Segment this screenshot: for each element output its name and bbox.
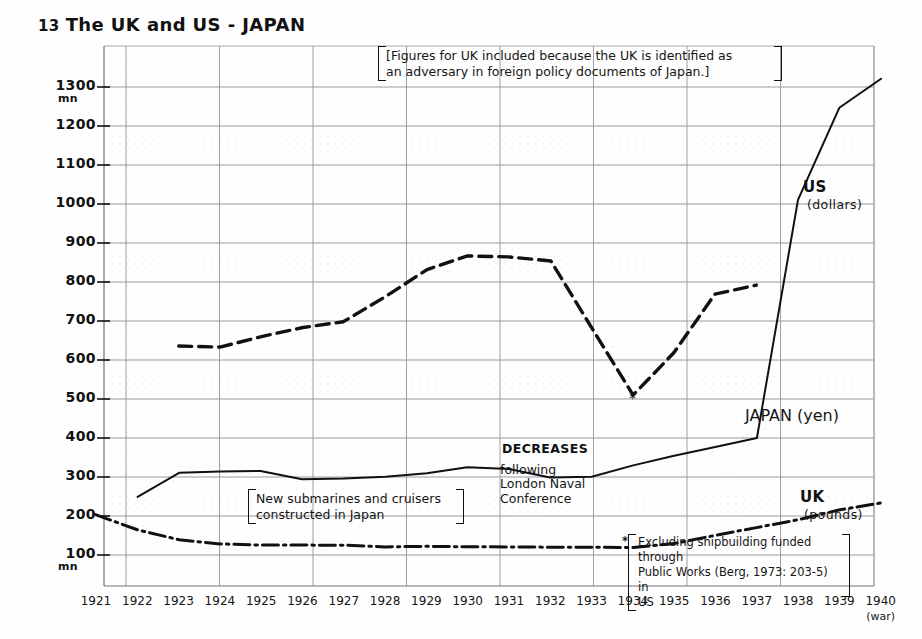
x-tick-value: 1925 bbox=[246, 594, 277, 608]
y-tick-value: 800 bbox=[66, 272, 96, 288]
x-tick-1930: 1930 bbox=[446, 594, 490, 608]
x-tick-value: 1929 bbox=[411, 594, 442, 608]
y-tick-300: 300 bbox=[40, 468, 96, 482]
y-tick-600: 600 bbox=[40, 351, 96, 365]
series-label-uk-unit: (pounds) bbox=[804, 507, 863, 522]
x-tick-1931: 1931 bbox=[487, 594, 531, 608]
annotation-top-line1: [Figures for UK included because the UK … bbox=[386, 48, 772, 64]
annotation-top-box: [Figures for UK included because the UK … bbox=[378, 46, 782, 81]
y-tick-100: 100mn bbox=[40, 546, 96, 572]
annotation-london-line2: London Naval bbox=[500, 477, 585, 491]
y-tick-1100: 1100 bbox=[40, 156, 96, 170]
x-tick-1921: 1921 bbox=[74, 594, 118, 608]
x-tick-1940: 1940(war) bbox=[859, 594, 903, 623]
x-tick-1932: 1932 bbox=[528, 594, 572, 608]
x-tick-1927: 1927 bbox=[322, 594, 366, 608]
x-tick-value: 1932 bbox=[535, 594, 566, 608]
y-tick-value: 100 bbox=[66, 545, 96, 561]
x-tick-value: 1921 bbox=[81, 594, 112, 608]
y-tick-1200: 1200 bbox=[40, 117, 96, 131]
annotation-london-naval: following London Naval Conference bbox=[500, 463, 585, 506]
annotation-footnote-line3: US bbox=[638, 595, 840, 610]
y-tick-700: 700 bbox=[40, 312, 96, 326]
y-tick-900: 900 bbox=[40, 234, 96, 248]
annotation-footnote-line1: Excluding shipbuilding funded through bbox=[638, 535, 840, 565]
x-tick-1922: 1922 bbox=[115, 594, 159, 608]
series-label-uk-name: UK bbox=[800, 488, 825, 506]
page-title: 13The UK and US - JAPAN bbox=[38, 14, 305, 35]
annotation-submarines-line1: New submarines and cruisers bbox=[256, 491, 454, 507]
x-tick-value: 1930 bbox=[452, 594, 483, 608]
x-tick-value: 1923 bbox=[163, 594, 194, 608]
x-tick-1925: 1925 bbox=[239, 594, 283, 608]
series-label-japan: JAPAN (yen) bbox=[745, 406, 839, 425]
y-tick-200: 200 bbox=[40, 507, 96, 521]
x-tick-value: 1924 bbox=[205, 594, 236, 608]
series-label-us-name: US bbox=[803, 178, 827, 196]
annotation-footnote-line2: Public Works (Berg, 1973: 203-5) in bbox=[638, 565, 840, 595]
x-tick-value: 1933 bbox=[576, 594, 607, 608]
annotation-footnote: * Excluding shipbuilding funded through … bbox=[628, 534, 850, 611]
annotation-submarines-line2: constructed in Japan bbox=[256, 507, 454, 523]
x-tick-1923: 1923 bbox=[157, 594, 201, 608]
y-tick-value: 1300 bbox=[55, 77, 96, 93]
annotation-top-line2: an adversary in foreign policy documents… bbox=[386, 64, 772, 80]
series-label-uk: UK (pounds) bbox=[800, 488, 863, 522]
annotation-london-line3: Conference bbox=[500, 492, 585, 506]
chart-svg: * bbox=[104, 46, 874, 586]
annotation-decreases-heading: DECREASES bbox=[502, 441, 588, 457]
footnote-asterisk: * bbox=[622, 534, 628, 549]
y-tick-value: 400 bbox=[66, 428, 96, 444]
annotation-submarines: New submarines and cruisers constructed … bbox=[248, 489, 464, 524]
series-label-us-unit: (dollars) bbox=[807, 197, 862, 212]
x-tick-1933: 1933 bbox=[570, 594, 614, 608]
x-tick-value: 1926 bbox=[287, 594, 318, 608]
series-label-us: US (dollars) bbox=[803, 178, 862, 212]
chart-plot-area: * bbox=[104, 46, 874, 586]
y-tick-400: 400 bbox=[40, 429, 96, 443]
y-tick-value: 600 bbox=[66, 350, 96, 366]
y-tick-value: 1100 bbox=[55, 155, 96, 171]
y-tick-1300: 1300mn bbox=[40, 78, 96, 104]
y-axis-unit: mn bbox=[40, 93, 96, 104]
y-tick-value: 900 bbox=[66, 233, 96, 249]
x-tick-1924: 1924 bbox=[198, 594, 242, 608]
y-tick-value: 300 bbox=[66, 467, 96, 483]
x-tick-value: 1940 bbox=[865, 594, 896, 608]
y-tick-value: 500 bbox=[66, 389, 96, 405]
page-number: 13 bbox=[38, 17, 60, 35]
y-tick-800: 800 bbox=[40, 273, 96, 287]
x-tick-value: 1928 bbox=[370, 594, 401, 608]
x-tick-war-note: (war) bbox=[859, 610, 903, 623]
y-tick-value: 200 bbox=[66, 506, 96, 522]
chart-page: 13The UK and US - JAPAN * 1300mn12001100… bbox=[0, 0, 922, 639]
y-axis-unit: mn bbox=[40, 561, 96, 572]
x-tick-value: 1931 bbox=[494, 594, 525, 608]
y-tick-value: 700 bbox=[66, 311, 96, 327]
y-tick-500: 500 bbox=[40, 390, 96, 404]
title-text: The UK and US - JAPAN bbox=[66, 14, 306, 35]
y-tick-value: 1000 bbox=[55, 194, 96, 210]
x-tick-value: 1922 bbox=[122, 594, 153, 608]
x-tick-1926: 1926 bbox=[281, 594, 325, 608]
x-tick-1929: 1929 bbox=[404, 594, 448, 608]
y-tick-value: 1200 bbox=[55, 116, 96, 132]
x-tick-value: 1927 bbox=[329, 594, 360, 608]
y-tick-1000: 1000 bbox=[40, 195, 96, 209]
annotation-london-line1: following bbox=[500, 463, 585, 477]
us-trough-asterisk: * bbox=[629, 390, 636, 406]
x-tick-1928: 1928 bbox=[363, 594, 407, 608]
